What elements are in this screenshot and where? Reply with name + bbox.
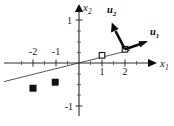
vector-u2-label-subscript: 2 xyxy=(112,10,117,18)
data-point-filled xyxy=(30,85,36,91)
y-axis-label-subscript: 2 xyxy=(88,7,92,16)
x-tick-label-2: 2 xyxy=(123,66,128,77)
x-tick-label-minus1: -1 xyxy=(52,46,60,57)
data-point-filled xyxy=(52,79,58,85)
x-tick-label-minus2: -2 xyxy=(29,46,37,57)
x-tick-label-1: 1 xyxy=(100,66,105,77)
y-tick-label-minus1: -1 xyxy=(65,101,73,112)
x-axis-label-subscript: 1 xyxy=(165,63,169,72)
principal-axes-figure: -2 -1 1 2 1 -1 x1 x2 u1 u2 xyxy=(0,0,174,126)
vector-u1-label-subscript: 1 xyxy=(156,32,160,40)
y-tick-label-1: 1 xyxy=(67,15,72,26)
coordinate-plot: -2 -1 1 2 1 -1 x1 x2 u1 u2 xyxy=(0,0,174,126)
data-point-open xyxy=(99,53,105,59)
